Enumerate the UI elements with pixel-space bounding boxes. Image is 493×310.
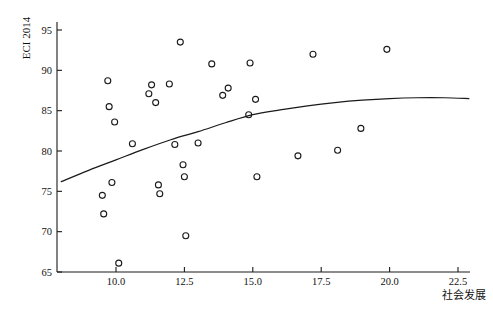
y-tick-label: 90 (42, 65, 53, 76)
x-axis: 10.012.515.017.520.022.5 社会发展 (57, 267, 486, 301)
data-point (295, 153, 301, 159)
y-axis: 65707580859095 ECI 2014 (20, 16, 62, 277)
x-tick-label: 12.5 (175, 276, 193, 287)
data-point (384, 46, 390, 52)
chart-canvas: 65707580859095 ECI 2014 10.012.515.017.5… (0, 0, 493, 310)
data-point (180, 162, 186, 168)
data-point (157, 191, 163, 197)
data-point (172, 142, 178, 148)
x-tick-label: 22.5 (449, 276, 467, 287)
y-tick-label: 80 (42, 146, 53, 157)
x-tick-label: 17.5 (312, 276, 330, 287)
data-point (195, 140, 201, 146)
data-points-group (99, 39, 390, 266)
data-point (153, 100, 159, 106)
y-axis-title: ECI 2014 (20, 16, 32, 59)
data-point (109, 179, 115, 185)
data-point (220, 92, 226, 98)
x-axis-title: 社会发展 (442, 288, 486, 301)
data-point (225, 85, 231, 91)
data-point (254, 174, 260, 180)
data-point (166, 81, 172, 87)
y-tick-label: 75 (42, 186, 53, 197)
data-point (183, 233, 189, 239)
data-point (105, 78, 111, 84)
y-tick-label: 70 (42, 226, 53, 237)
data-point (247, 60, 253, 66)
y-axis-ticks: 65707580859095 (42, 25, 63, 278)
data-point (106, 104, 112, 110)
y-tick-label: 85 (42, 105, 53, 116)
data-point (310, 51, 316, 57)
x-tick-label: 10.0 (107, 276, 125, 287)
data-point (181, 174, 187, 180)
data-point (335, 147, 341, 153)
regression-fit-curve (61, 98, 469, 182)
data-point (177, 39, 183, 45)
y-tick-label: 65 (42, 267, 53, 278)
x-axis-ticks: 10.012.515.017.520.022.5 (107, 267, 467, 287)
data-point (112, 119, 118, 125)
data-point (155, 182, 161, 188)
data-point (116, 260, 122, 266)
data-point (129, 141, 135, 147)
data-point (253, 96, 259, 102)
x-tick-label: 20.0 (380, 276, 398, 287)
data-point (358, 125, 364, 131)
scatter-plot-figure: 65707580859095 ECI 2014 10.012.515.017.5… (0, 0, 493, 310)
x-tick-label: 15.0 (244, 276, 262, 287)
data-point (99, 192, 105, 198)
data-point (146, 91, 152, 97)
y-tick-label: 95 (42, 25, 53, 36)
data-point (101, 211, 107, 217)
data-point (149, 82, 155, 88)
data-point (209, 61, 215, 67)
